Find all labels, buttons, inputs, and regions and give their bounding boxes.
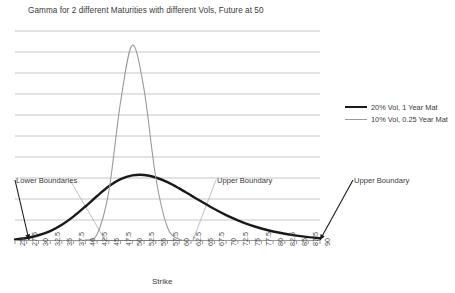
plot-area (0, 0, 455, 293)
x-tick-label: 30 (41, 238, 50, 246)
x-tick-label: 27.5 (30, 232, 39, 246)
x-tick-label: 90 (323, 238, 332, 246)
x-axis-title: Strike (152, 277, 172, 286)
x-tick-label: 85 (300, 238, 309, 246)
x-tick-label: 67.5 (217, 232, 226, 246)
x-tick-label: 60 (182, 238, 191, 246)
x-tick-label: 65 (206, 238, 215, 246)
chart-legend: 20% Vol, 1 Year Mat10% Vol, 0.25 Year Ma… (345, 101, 453, 125)
annotation-leaders (15, 180, 353, 240)
x-tick-label: 75 (253, 238, 262, 246)
legend-swatch-icon (345, 102, 367, 112)
x-tick-label: 47.5 (124, 232, 133, 246)
x-tick-label: 77.5 (264, 232, 273, 246)
x-tick-label: 52.5 (147, 232, 156, 246)
legend-item: 20% Vol, 1 Year Mat (345, 101, 453, 113)
annotation-leader-line (320, 180, 353, 240)
x-tick-label: 37.5 (77, 232, 86, 246)
x-tick-label: 87.5 (311, 232, 320, 246)
gridlines (15, 31, 320, 220)
legend-item: 10% Vol, 0.25 Year Mat (345, 113, 453, 125)
legend-swatch-icon (345, 114, 367, 124)
x-tick-label: 25 (18, 238, 27, 246)
x-tick-label: 62.5 (194, 232, 203, 246)
annotation-upper-boundary-right: Upper Boundary (354, 176, 409, 185)
annotation-upper-boundary-mid: Upper Boundary (217, 176, 272, 185)
legend-label: 20% Vol, 1 Year Mat (371, 103, 438, 112)
data-series (15, 45, 320, 241)
x-tick-label: 35 (65, 238, 74, 246)
legend-label: 10% Vol, 0.25 Year Mat (371, 115, 448, 124)
x-tick-label: 57.5 (171, 232, 180, 246)
x-tick-label: 32.5 (53, 232, 62, 246)
x-tick-label: 40 (88, 238, 97, 246)
x-tick-label: 80 (276, 238, 285, 246)
x-tick-label: 72.5 (241, 232, 250, 246)
x-tick-label: 42.5 (100, 232, 109, 246)
series-line (15, 45, 320, 241)
annotation-leader-line (70, 180, 105, 240)
gamma-chart: Gamma for 2 different Maturities with di… (0, 0, 455, 293)
x-tick-label: 45 (112, 238, 121, 246)
annotation-leader-line (15, 180, 29, 240)
x-tick-label: 82.5 (288, 232, 297, 246)
x-tick-label: 50 (135, 238, 144, 246)
annotation-leader-line (193, 180, 216, 240)
x-tick-label: 55 (159, 238, 168, 246)
x-tick-label: 70 (229, 238, 238, 246)
annotation-lower-boundaries: Lower Boundaries (16, 176, 77, 185)
